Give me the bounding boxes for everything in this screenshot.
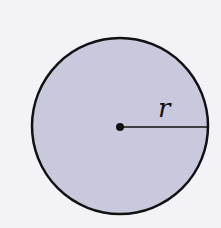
radius-label: r <box>158 93 172 123</box>
center-point <box>116 123 124 131</box>
circle-diagram: r <box>0 0 221 228</box>
